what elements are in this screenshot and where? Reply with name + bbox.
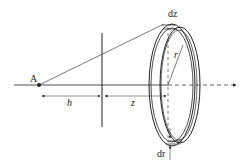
label-h: h: [67, 97, 72, 108]
label-a: A: [30, 73, 38, 84]
label-dz: dz: [168, 8, 178, 19]
diagram-canvas: A h z r dz dr: [0, 0, 243, 167]
label-z: z: [130, 97, 135, 108]
label-dr: dr: [157, 148, 166, 159]
label-r: r: [174, 49, 178, 60]
